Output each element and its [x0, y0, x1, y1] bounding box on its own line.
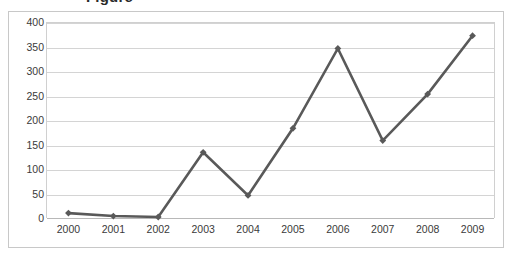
- line-series-svg: [46, 22, 495, 218]
- chart-title-text: Figure: [86, 0, 133, 5]
- y-tick-label: 200: [10, 115, 44, 125]
- y-tick-label: 50: [10, 189, 44, 199]
- x-axis-tick-labels: 2000200120022003200420052006200720082009: [46, 223, 495, 241]
- y-tick-label: 350: [10, 42, 44, 52]
- x-tick-label: 2007: [371, 223, 394, 235]
- y-tick-label: 0: [10, 213, 44, 223]
- x-tick-label: 2003: [191, 223, 214, 235]
- plot-area-wrapper: [46, 22, 495, 218]
- y-tick-label: 150: [10, 140, 44, 150]
- x-tick-label: 2004: [236, 223, 259, 235]
- y-tick-label: 100: [10, 164, 44, 174]
- chart-frame: 050100150200250300350400 200020012002200…: [8, 11, 504, 248]
- x-tick-label: 2000: [57, 223, 80, 235]
- y-tick-label: 400: [10, 17, 44, 27]
- y-axis-tick-labels: 050100150200250300350400: [9, 22, 44, 218]
- data-point-marker: [65, 210, 72, 217]
- x-tick-label: 2006: [326, 223, 349, 235]
- x-tick-label: 2009: [461, 223, 484, 235]
- x-tick-label: 2005: [281, 223, 304, 235]
- x-tick-label: 2002: [147, 223, 170, 235]
- y-tick-label: 250: [10, 91, 44, 101]
- x-tick-label: 2008: [416, 223, 439, 235]
- chart-title-fragment: Figure: [0, 0, 511, 9]
- y-tick-label: 300: [10, 66, 44, 76]
- x-tick-label: 2001: [102, 223, 125, 235]
- series-line-0: [68, 36, 472, 217]
